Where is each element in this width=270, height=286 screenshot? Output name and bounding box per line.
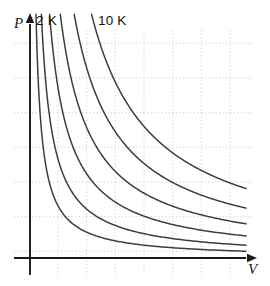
pressure-axis-label: P (14, 16, 23, 31)
isotherm-curves (36, 14, 246, 251)
volume-axis-label: V (248, 262, 257, 277)
pressure-axis-arrowhead (26, 13, 34, 23)
isotherm-curve (60, 14, 246, 223)
isotherm-label-coldest: 2 K (36, 14, 57, 28)
pv-isotherm-figure: P V 2 K 10 K (0, 0, 270, 286)
plot-canvas (0, 0, 270, 286)
horizontal-gridlines (14, 43, 252, 251)
isotherm-curve (50, 14, 246, 236)
isotherm-curve (92, 14, 246, 188)
vertical-gridlines (58, 30, 230, 278)
axis-lines (14, 13, 257, 275)
isotherm-label-hottest: 10 K (98, 14, 127, 28)
